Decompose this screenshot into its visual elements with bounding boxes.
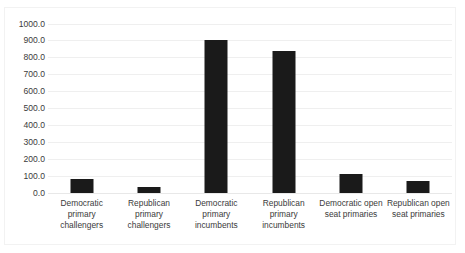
x-axis-label-line: incumbents bbox=[242, 220, 326, 231]
bar bbox=[340, 174, 363, 193]
gridline bbox=[48, 40, 452, 41]
y-axis-tick-label: 200.0 bbox=[0, 155, 45, 164]
y-axis-tick-label: 300.0 bbox=[0, 138, 45, 147]
y-axis-tick-label: 100.0 bbox=[0, 172, 45, 181]
bar-chart: 1000.0900.0800.0700.0600.0500.0400.0300.… bbox=[0, 0, 465, 253]
gridline bbox=[48, 125, 452, 126]
gridline bbox=[48, 108, 452, 109]
x-axis-label-line: seat primaries bbox=[376, 209, 460, 220]
gridline bbox=[48, 74, 452, 75]
y-axis-tick-label: 800.0 bbox=[0, 53, 45, 62]
gridline bbox=[48, 176, 452, 177]
y-axis-tick-label: 500.0 bbox=[0, 104, 45, 113]
y-axis-tick-label: 400.0 bbox=[0, 121, 45, 130]
bar bbox=[138, 187, 161, 193]
bar bbox=[70, 179, 93, 193]
gridline bbox=[48, 57, 452, 58]
gridline bbox=[48, 91, 452, 92]
gridline bbox=[48, 159, 452, 160]
x-axis-label-line: Republican open bbox=[376, 198, 460, 209]
gridline bbox=[48, 142, 452, 143]
y-axis-tick-label: 0.0 bbox=[0, 189, 45, 198]
y-axis-tick-label: 1000.0 bbox=[0, 19, 45, 28]
bar bbox=[407, 181, 430, 193]
gridline bbox=[48, 193, 452, 194]
y-axis-tick-label: 900.0 bbox=[0, 36, 45, 45]
plot-area bbox=[48, 24, 452, 194]
x-axis-category-label: Republican openseat primaries bbox=[376, 198, 460, 220]
gridline bbox=[48, 24, 452, 25]
y-axis-tick-label: 700.0 bbox=[0, 70, 45, 79]
bar bbox=[272, 51, 295, 193]
bar bbox=[205, 40, 228, 193]
y-axis-tick-label: 600.0 bbox=[0, 87, 45, 96]
